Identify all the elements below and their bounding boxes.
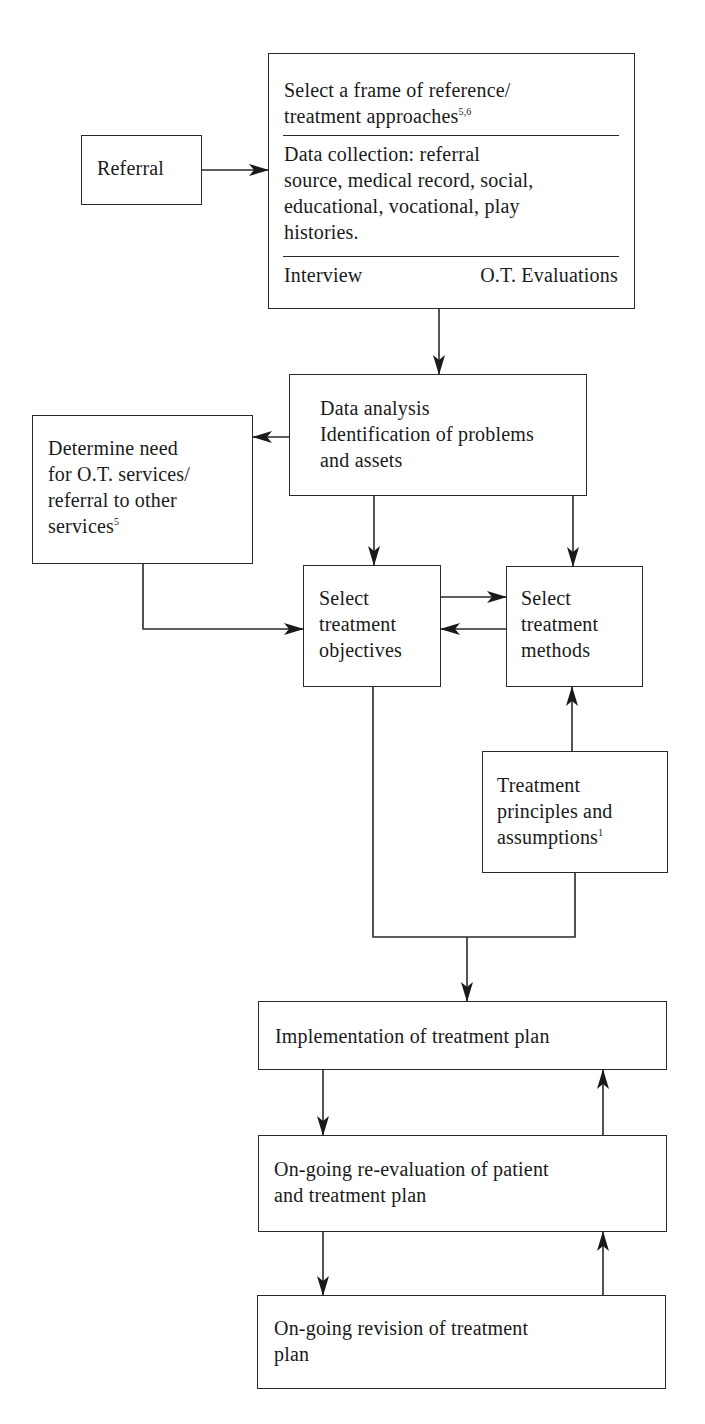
ot-evaluations-label: O.T. Evaluations (480, 262, 618, 288)
objectives-line-2: treatment (319, 611, 402, 637)
methods-text: Select treatment methods (521, 585, 598, 663)
frame-footnote-ref: 5,6 (458, 106, 471, 117)
principles-footnote-ref: 1 (598, 827, 603, 838)
data-analysis-text: Data analysis Identification of problems… (320, 395, 534, 473)
data-collection-line-2: source, medical record, social, (284, 167, 533, 193)
determine-line-4: services5 (48, 513, 190, 539)
objectives-line-3: objectives (319, 637, 402, 663)
determine-line-3: referral to other (48, 487, 190, 513)
determine-footnote-ref: 5 (114, 516, 119, 527)
determine-need-text: Determine need for O.T. services/ referr… (48, 435, 190, 539)
frame-title-line-2: treatment approaches5,6 (284, 103, 511, 129)
frame-section-title: Select a frame of reference/ treatment a… (284, 77, 511, 129)
revision-line-1: On-going revision of treatment (274, 1315, 528, 1341)
principles-text: Treatment principles and assumptions1 (497, 772, 613, 850)
frame-title-line-1: Select a frame of reference/ (284, 77, 511, 103)
objectives-text: Select treatment objectives (319, 585, 402, 663)
frame-data-collection: Data collection: referral source, medica… (284, 141, 533, 245)
frame-evaluation-methods: Interview O.T. Evaluations (284, 262, 618, 288)
revision-text: On-going revision of treatment plan (274, 1315, 528, 1367)
revision-line-2: plan (274, 1341, 528, 1367)
reevaluation-line-2: and treatment plan (274, 1182, 549, 1208)
frame-divider-2 (283, 256, 619, 257)
determine-line-2: for O.T. services/ (48, 461, 190, 487)
data-collection-line-1: Data collection: referral (284, 141, 533, 167)
data-collection-line-3: educational, vocational, play (284, 193, 533, 219)
objectives-line-1: Select (319, 585, 402, 611)
principles-line-2: principles and (497, 798, 613, 824)
principles-line-3: assumptions1 (497, 824, 613, 850)
implementation-label: Implementation of treatment plan (275, 1023, 550, 1049)
determine-line-4-text: services (48, 515, 114, 537)
arrow-determine-to-objectives (143, 564, 303, 629)
frame-divider-1 (283, 135, 619, 136)
analysis-line-3: and assets (320, 447, 534, 473)
reevaluation-line-1: On-going re-evaluation of patient (274, 1156, 549, 1182)
principles-line-3-text: assumptions (497, 826, 598, 848)
methods-line-1: Select (521, 585, 598, 611)
determine-line-1: Determine need (48, 435, 190, 461)
principles-line-1: Treatment (497, 772, 613, 798)
data-collection-line-4: histories. (284, 219, 533, 245)
methods-line-2: treatment (521, 611, 598, 637)
analysis-line-1: Data analysis (320, 395, 534, 421)
analysis-line-2: Identification of problems (320, 421, 534, 447)
reevaluation-text: On-going re-evaluation of patient and tr… (274, 1156, 549, 1208)
interview-label: Interview (284, 262, 362, 288)
node-referral-label: Referral (97, 155, 164, 181)
methods-line-3: methods (521, 637, 598, 663)
frame-title-line-2-text: treatment approaches (284, 105, 458, 127)
